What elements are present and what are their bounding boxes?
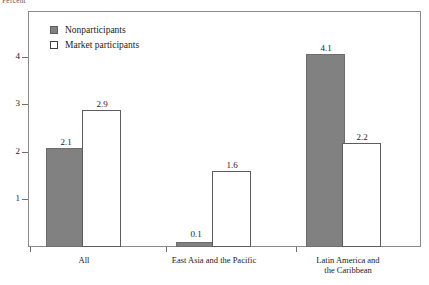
x-axis-tick-group-2-3 [296,247,297,252]
category-label-all: All [79,255,90,265]
y-axis-label-4-wrap: 4 [2,52,20,61]
bar-lac-market[interactable] [342,143,381,247]
category-label-east-asia-pacific: East Asia and the Pacific [172,255,257,265]
bars-layer [28,11,421,247]
y-axis-label-2-wrap: 2 [2,147,20,156]
bar-value-eap-nonparticipants: 0.1 [190,230,201,239]
bar-value-all-market: 2.9 [96,100,107,109]
bar-all-market[interactable] [82,110,121,247]
grouped-bar-chart: Percent 4 3 2 1 Nonparticipants Market p… [0,0,429,285]
y-axis-label-2: 2 [6,147,20,156]
bar-value-lac-market: 2.2 [356,133,367,142]
bar-lac-nonparticipants[interactable] [306,54,345,247]
bar-eap-market[interactable] [212,171,251,247]
x-axis-tick-group-1-2 [166,247,167,252]
y-axis-label-3-wrap: 3 [2,99,20,108]
bar-value-lac-nonparticipants: 4.1 [320,44,331,53]
y-axis-label-1-wrap: 1 [2,194,20,203]
x-axis-tick-left-edge [30,247,31,252]
y-axis-title: Percent [2,0,26,5]
bar-value-eap-market: 1.6 [226,161,237,170]
y-axis-label-4: 4 [6,52,20,61]
category-label-latin-america-caribbean: Latin America and the Caribbean [316,255,379,275]
bar-value-all-nonparticipants: 2.1 [60,138,71,147]
y-axis-label-3: 3 [6,99,20,108]
y-axis-label-1: 1 [6,194,20,203]
bar-all-nonparticipants[interactable] [46,148,85,247]
bar-eap-nonparticipants[interactable] [176,242,215,247]
